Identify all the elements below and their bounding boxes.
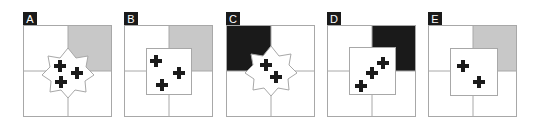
- panel-label-a: A: [23, 12, 37, 26]
- panel-label-d: D: [327, 12, 341, 26]
- panel-b-figure: [124, 25, 213, 117]
- panel-a: A: [23, 0, 123, 124]
- panel-label-e: E: [428, 12, 442, 26]
- panel-d-figure: [327, 25, 416, 117]
- panel-b: B: [124, 0, 224, 124]
- panel-d: D: [327, 0, 427, 124]
- panel-e-figure: [428, 25, 517, 117]
- panel-label-c: C: [226, 12, 240, 26]
- panel-label-b: B: [124, 12, 138, 26]
- panel-e: E: [428, 0, 528, 124]
- panel-c: C: [226, 0, 326, 124]
- square-shape: [451, 49, 498, 96]
- panel-a-figure: [23, 25, 112, 117]
- panel-c-figure: [226, 25, 315, 117]
